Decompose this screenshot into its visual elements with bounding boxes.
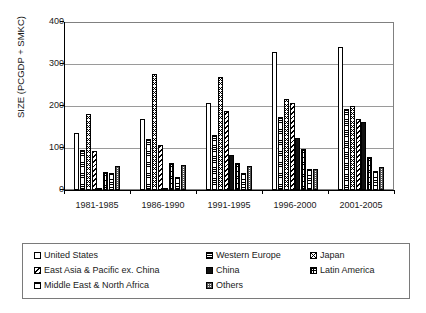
bar bbox=[338, 47, 343, 190]
bar bbox=[278, 117, 283, 191]
bar-group bbox=[328, 22, 394, 190]
bar bbox=[140, 119, 145, 190]
bar bbox=[212, 135, 217, 190]
x-tick-label: 1991-1995 bbox=[196, 200, 262, 210]
bar bbox=[175, 177, 180, 190]
bars-layer bbox=[64, 22, 394, 190]
x-tick-mark bbox=[196, 190, 197, 194]
legend-item: Others bbox=[206, 280, 310, 290]
bar bbox=[247, 166, 252, 190]
legend-item: East Asia & Pacific ex. China bbox=[34, 265, 206, 275]
x-tick-mark bbox=[394, 190, 395, 194]
legend-label: United States bbox=[44, 250, 98, 260]
bar bbox=[158, 145, 163, 190]
legend-label: China bbox=[216, 265, 240, 275]
bar bbox=[103, 172, 108, 190]
bar bbox=[109, 173, 114, 190]
bar bbox=[272, 52, 277, 190]
x-tick-label: 2001-2005 bbox=[328, 200, 394, 210]
x-tick-label: 1981-1985 bbox=[64, 200, 130, 210]
bar bbox=[379, 167, 384, 190]
y-tick-label: 0 bbox=[12, 185, 64, 194]
legend-swatch-icon bbox=[310, 267, 317, 274]
bar bbox=[86, 114, 91, 190]
bar bbox=[290, 103, 295, 190]
x-tick-label: 1986-1990 bbox=[130, 200, 196, 210]
bar bbox=[80, 150, 85, 190]
bar bbox=[146, 139, 151, 190]
legend-item: Latin America bbox=[310, 265, 404, 275]
y-tick-label: 100 bbox=[12, 143, 64, 152]
legend-item: United States bbox=[34, 250, 206, 260]
bar bbox=[241, 173, 246, 190]
legend-swatch-icon bbox=[206, 267, 213, 274]
legend-swatch-icon bbox=[310, 252, 317, 259]
bar bbox=[350, 106, 355, 190]
bar bbox=[169, 163, 174, 190]
bar bbox=[361, 122, 366, 190]
bar bbox=[284, 99, 289, 190]
y-tick-label: 300 bbox=[12, 59, 64, 68]
bar bbox=[367, 157, 372, 190]
legend-row: Middle East & North AfricaOthers bbox=[34, 280, 404, 295]
y-tick-label: 400 bbox=[12, 17, 64, 26]
x-tick-mark bbox=[130, 190, 131, 194]
legend-item: China bbox=[206, 265, 310, 275]
bar-group bbox=[196, 22, 262, 190]
legend-label: Middle East & North Africa bbox=[44, 280, 149, 290]
legend-entries: United StatesWestern EuropeJapanEast Asi… bbox=[34, 250, 404, 295]
x-tick-mark bbox=[262, 190, 263, 194]
x-tick-label: 1996-2000 bbox=[262, 200, 328, 210]
legend-swatch-icon bbox=[206, 252, 213, 259]
bar-group bbox=[262, 22, 328, 190]
x-axis-line bbox=[64, 190, 394, 191]
legend-swatch-icon bbox=[34, 282, 41, 289]
bar bbox=[295, 138, 300, 190]
bar bbox=[74, 133, 79, 190]
legend-item: Middle East & North Africa bbox=[34, 280, 206, 290]
legend-row: East Asia & Pacific ex. ChinaChinaLatin … bbox=[34, 265, 404, 280]
bar bbox=[235, 163, 240, 190]
bar bbox=[313, 169, 318, 190]
legend-swatch-icon bbox=[34, 267, 41, 274]
bar bbox=[206, 103, 211, 190]
bar bbox=[92, 151, 97, 190]
y-tick-label: 200 bbox=[12, 101, 64, 110]
chart-legend: United StatesWestern EuropeJapanEast Asi… bbox=[22, 243, 410, 299]
legend-swatch-icon bbox=[34, 252, 41, 259]
x-tick-mark bbox=[328, 190, 329, 194]
legend-item: Japan bbox=[310, 250, 404, 260]
bar bbox=[229, 155, 234, 190]
bar bbox=[356, 119, 361, 190]
bar bbox=[218, 77, 223, 190]
bar-group bbox=[64, 22, 130, 190]
bar bbox=[115, 166, 120, 190]
bar bbox=[373, 171, 378, 190]
bar bbox=[224, 111, 229, 190]
legend-label: Latin America bbox=[320, 265, 375, 275]
bar bbox=[301, 149, 306, 190]
legend-label: Others bbox=[216, 280, 243, 290]
legend-swatch-icon bbox=[206, 282, 213, 289]
legend-label: Japan bbox=[320, 250, 345, 260]
bar bbox=[181, 165, 186, 190]
legend-item: Western Europe bbox=[206, 250, 310, 260]
legend-label: Western Europe bbox=[216, 250, 281, 260]
bar bbox=[152, 74, 157, 190]
bar bbox=[97, 188, 102, 190]
bar bbox=[163, 188, 168, 190]
bar bbox=[344, 109, 349, 190]
chart-figure: SIZE (PCGDP + SMKC) 0100200300400 1981-1… bbox=[0, 0, 426, 313]
legend-label: East Asia & Pacific ex. China bbox=[44, 265, 160, 275]
x-tick-mark bbox=[64, 190, 65, 194]
bar-group bbox=[130, 22, 196, 190]
bar bbox=[307, 169, 312, 190]
legend-row: United StatesWestern EuropeJapan bbox=[34, 250, 404, 265]
